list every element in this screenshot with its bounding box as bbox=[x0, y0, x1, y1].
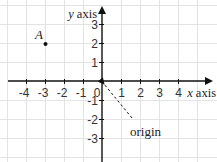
x-tick-labels: -4 -3 -2 -1 0 1 2 3 4 bbox=[19, 86, 182, 100]
origin-annotation: origin bbox=[104, 84, 162, 139]
x-axis-label: x axis bbox=[186, 86, 216, 100]
y-axis-label: y axis bbox=[66, 7, 97, 21]
y-tick-label: -1 bbox=[87, 94, 98, 108]
y-tick-label: -2 bbox=[87, 113, 98, 127]
x-tick-label: 4 bbox=[175, 86, 182, 100]
x-tick-label: -3 bbox=[38, 86, 49, 100]
origin-label: origin bbox=[130, 124, 162, 139]
y-tick-labels: 3 2 1 -1 -2 -3 bbox=[87, 18, 98, 146]
x-tick-label: -4 bbox=[19, 86, 30, 100]
x-tick-label: 3 bbox=[156, 86, 163, 100]
x-tick-label: -1 bbox=[76, 86, 87, 100]
x-axis bbox=[8, 79, 209, 84]
coordinate-grid-diagram: -4 -3 -2 -1 0 1 2 3 4 3 2 1 -1 -2 -3 y a… bbox=[0, 0, 217, 162]
x-tick-label: -2 bbox=[57, 86, 68, 100]
point-marker bbox=[44, 42, 48, 46]
y-tick-label: 1 bbox=[91, 56, 98, 70]
y-tick-label: 2 bbox=[91, 37, 98, 51]
point-label: A bbox=[34, 27, 43, 42]
y-tick-label: -3 bbox=[87, 132, 98, 146]
x-tick-label: 1 bbox=[118, 86, 125, 100]
x-tick-label: 2 bbox=[137, 86, 144, 100]
